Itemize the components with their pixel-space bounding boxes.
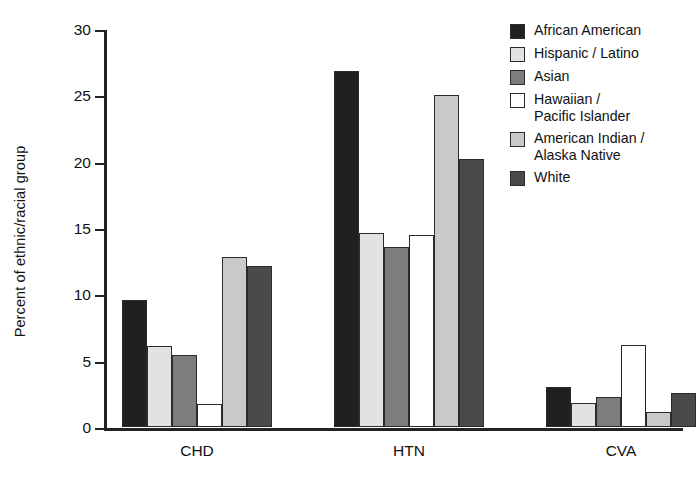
y-axis-tick-label: 30	[74, 21, 91, 39]
legend-swatch-icon	[510, 24, 525, 39]
bar	[409, 235, 434, 427]
legend-item[interactable]: Asian	[510, 68, 682, 85]
y-axis-title: Percent of ethnic/racial group	[0, 0, 40, 483]
bar	[621, 345, 646, 427]
bar	[122, 300, 147, 427]
bar	[459, 159, 484, 427]
legend-item[interactable]: African American	[510, 22, 682, 39]
bar	[222, 257, 247, 427]
bar	[546, 387, 571, 427]
bar	[646, 412, 671, 427]
legend-label: Asian	[534, 68, 570, 85]
bar	[571, 403, 596, 427]
bar	[172, 355, 197, 427]
legend-swatch-icon	[510, 47, 525, 62]
y-axis-tick-label: 15	[74, 220, 91, 238]
legend-swatch-icon	[510, 132, 525, 147]
legend-swatch-icon	[510, 93, 525, 108]
y-axis-tick-mark	[95, 229, 104, 231]
legend-item[interactable]: White	[510, 169, 682, 186]
legend-label: Hispanic / Latino	[534, 45, 639, 62]
legend-item[interactable]: American Indian / Alaska Native	[510, 130, 682, 163]
y-axis-tick-label: 25	[74, 87, 91, 105]
x-axis-group-label: CVA	[546, 442, 696, 460]
y-axis-tick-label: 10	[74, 286, 91, 304]
legend-label: Hawaiian / Pacific Islander	[534, 91, 630, 124]
plot-area: 051015202530 CHDHTNCVA	[104, 30, 494, 430]
bar	[671, 393, 696, 427]
y-axis-tick-mark	[95, 163, 104, 165]
bar	[434, 95, 459, 427]
x-axis-group-label: CHD	[122, 442, 272, 460]
y-axis-tick-mark	[95, 30, 104, 32]
bar	[334, 71, 359, 427]
y-axis-tick-label: 0	[82, 419, 91, 437]
y-axis-tick-mark	[95, 428, 104, 430]
legend-item[interactable]: Hispanic / Latino	[510, 45, 682, 62]
bar	[147, 346, 172, 427]
legend-item[interactable]: Hawaiian / Pacific Islander	[510, 91, 682, 124]
bar	[384, 247, 409, 427]
bar	[197, 404, 222, 427]
bar	[247, 266, 272, 427]
x-axis-group-label: HTN	[334, 442, 484, 460]
bar	[596, 397, 621, 428]
y-axis-tick-label: 5	[82, 353, 91, 371]
legend-label: American Indian / Alaska Native	[534, 130, 644, 163]
legend: African AmericanHispanic / LatinoAsianHa…	[510, 22, 682, 192]
legend-label: White	[534, 169, 570, 186]
legend-label: African American	[534, 22, 641, 39]
bar-group	[122, 29, 272, 427]
bar	[359, 233, 384, 427]
legend-swatch-icon	[510, 70, 525, 85]
legend-swatch-icon	[510, 171, 525, 186]
y-axis-tick-label: 20	[74, 154, 91, 172]
bar-group	[334, 29, 484, 427]
y-axis-line	[104, 30, 107, 431]
y-axis-tick-mark	[95, 96, 104, 98]
y-axis-tick-mark	[95, 295, 104, 297]
y-axis-tick-mark	[95, 362, 104, 364]
x-axis-line	[104, 428, 683, 431]
